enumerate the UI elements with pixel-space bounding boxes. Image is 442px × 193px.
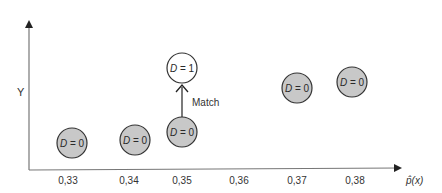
node-label: D = 1 [170, 63, 195, 74]
node-label: D = 0 [285, 83, 310, 94]
x-tick-label: 0,35 [172, 175, 192, 186]
control-node: D = 0 [337, 67, 367, 97]
control-node: D = 0 [57, 128, 87, 158]
x-tick-label: 0,38 [345, 175, 365, 186]
x-axis [29, 168, 400, 170]
y-axis-label: Y [17, 86, 25, 98]
control-node: D = 0 [282, 73, 312, 103]
node-label: D = 0 [340, 77, 365, 88]
x-tick-label: 0,36 [229, 175, 249, 186]
x-tick-label: 0,33 [58, 175, 78, 186]
x-tick-label: 0,37 [287, 175, 307, 186]
x-axis-label: p̂(x) [405, 175, 423, 186]
x-tick-labels: 0,330,340,350,360,370,38 [58, 175, 365, 186]
treated-node: D = 1 [167, 53, 197, 83]
control-node: D = 0 [120, 125, 150, 155]
node-label: D = 0 [123, 135, 148, 146]
match-label: Match [192, 97, 219, 108]
x-tick-label: 0,34 [119, 175, 139, 186]
node-label: D = 0 [170, 127, 195, 138]
control-node: D = 0 [167, 117, 197, 147]
node-label: D = 0 [60, 138, 85, 149]
propensity-score-matching-diagram: Y p̂(x) 0,330,340,350,360,370,38 Match D… [0, 0, 442, 193]
